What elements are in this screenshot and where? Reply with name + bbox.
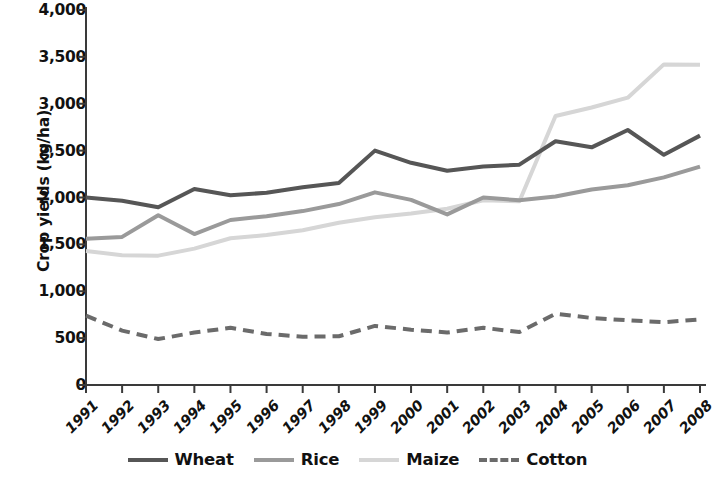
series-line-cotton bbox=[86, 314, 700, 339]
legend-label: Maize bbox=[406, 450, 459, 469]
series-line-rice bbox=[86, 167, 700, 239]
legend-label: Rice bbox=[301, 450, 340, 469]
legend-swatch-maize bbox=[359, 458, 399, 462]
legend-label: Cotton bbox=[526, 450, 587, 469]
chart-legend: WheatRiceMaizeCotton bbox=[0, 450, 715, 469]
legend-swatch-rice bbox=[254, 458, 294, 462]
crop-yields-line-chart: Crop yields (kg/ha) 05001,0001,5002,0002… bbox=[0, 0, 715, 477]
legend-swatch-wheat bbox=[128, 458, 168, 462]
legend-label: Wheat bbox=[175, 450, 234, 469]
legend-item-maize[interactable]: Maize bbox=[359, 450, 459, 469]
legend-item-wheat[interactable]: Wheat bbox=[128, 450, 234, 469]
legend-item-cotton[interactable]: Cotton bbox=[479, 450, 587, 469]
plot-area bbox=[0, 0, 715, 477]
legend-item-rice[interactable]: Rice bbox=[254, 450, 340, 469]
legend-swatch-cotton bbox=[479, 458, 519, 462]
